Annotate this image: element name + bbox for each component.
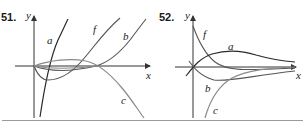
figure-51: 51. y x a f b c — [1, 9, 151, 118]
figure-52-number: 52. — [159, 11, 174, 23]
figure-51-curve-f — [34, 18, 120, 80]
figure-52-curve-c — [205, 67, 295, 118]
figure-52-curve-f — [193, 26, 295, 70]
figure-52-label-f: f — [203, 28, 208, 40]
figure-52-y-label: y — [184, 9, 190, 21]
figure-52-label-b: b — [205, 82, 211, 94]
figure-51-label-b: b — [123, 30, 129, 42]
figure-52: 52. y x f a b c — [159, 9, 301, 118]
figure-52-label-a: a — [228, 40, 234, 52]
figure-51-label-c: c — [121, 94, 126, 106]
figure-52-label-c: c — [213, 104, 218, 116]
figure-51-x-label: x — [145, 69, 151, 81]
figure-52-curve-a — [186, 51, 295, 76]
figure-51-label-a: a — [47, 34, 53, 46]
figure-52-x-label: x — [295, 69, 301, 81]
figure-51-y-label: y — [25, 9, 31, 21]
figure-52-curve-b — [189, 61, 295, 80]
figure-51-number: 51. — [1, 11, 16, 23]
figure-51-label-f: f — [93, 23, 98, 35]
figures-canvas: 51. y x a f b c 52. y x f a — [0, 0, 305, 124]
